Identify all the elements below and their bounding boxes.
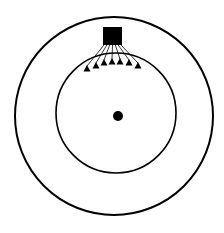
triangle-marker [84, 65, 91, 72]
concentric-circle-diagram [0, 0, 224, 233]
triangle-marker [101, 59, 108, 66]
triangle-marker [93, 62, 100, 69]
triangle-marker [126, 59, 133, 66]
triangle-marker [135, 62, 142, 69]
center-dot [113, 111, 123, 121]
triangle-marker [109, 58, 116, 65]
black-square [103, 27, 122, 45]
triangle-marker [117, 58, 124, 65]
connector-line [104, 45, 110, 60]
connector-line [112, 45, 113, 59]
